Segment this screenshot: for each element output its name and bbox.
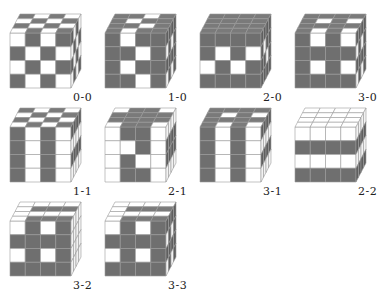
front-cell xyxy=(295,61,310,75)
cube-label: 3-2 xyxy=(73,279,92,292)
top-cell xyxy=(343,24,361,29)
front-cell xyxy=(246,155,261,169)
front-cell xyxy=(41,249,56,263)
front-cell xyxy=(120,221,135,235)
top-cell xyxy=(33,14,51,19)
top-cell xyxy=(341,28,359,33)
cube-2-1 xyxy=(105,108,176,182)
top-cell xyxy=(113,202,131,207)
front-cell xyxy=(295,33,310,47)
front-cell xyxy=(200,47,215,61)
front-cell xyxy=(295,127,310,141)
front-cell xyxy=(105,33,120,47)
front-cell xyxy=(215,168,230,182)
top-cell xyxy=(295,122,313,127)
front-cell xyxy=(25,168,40,182)
top-cell xyxy=(141,207,159,212)
top-cell xyxy=(61,113,79,118)
front-cell xyxy=(25,141,40,155)
front-cell xyxy=(295,74,310,88)
top-cell xyxy=(46,113,64,118)
front-cell xyxy=(215,141,230,155)
top-cell xyxy=(113,108,131,113)
front-cell xyxy=(136,33,151,47)
front-cell xyxy=(10,235,25,249)
top-cell xyxy=(295,28,313,33)
top-cell xyxy=(61,19,79,24)
front-cell xyxy=(105,155,120,169)
top-cell xyxy=(205,113,223,118)
front-cell xyxy=(41,47,56,61)
front-cell xyxy=(136,74,151,88)
cube-label: 2-0 xyxy=(263,91,282,104)
top-cell xyxy=(105,122,123,127)
front-cell xyxy=(326,168,341,182)
cube-1-0 xyxy=(105,14,176,88)
top-cell xyxy=(246,28,264,33)
top-cell xyxy=(151,122,169,127)
top-cell xyxy=(13,212,31,217)
top-cell xyxy=(13,24,31,29)
top-cell xyxy=(156,19,174,24)
front-cell xyxy=(200,127,215,141)
front-cell xyxy=(151,262,166,276)
top-cell xyxy=(46,19,64,24)
front-cell xyxy=(231,74,246,88)
front-cell xyxy=(56,127,71,141)
top-cell xyxy=(13,118,31,123)
front-cell xyxy=(151,249,166,263)
top-cell xyxy=(313,24,331,29)
top-cell xyxy=(153,24,171,29)
top-cell xyxy=(300,113,318,118)
top-cell xyxy=(253,108,271,113)
front-cell xyxy=(41,221,56,235)
top-cell xyxy=(341,122,359,127)
front-cell xyxy=(10,127,25,141)
front-cell xyxy=(215,61,230,75)
top-cell xyxy=(120,122,138,127)
front-cell xyxy=(310,74,325,88)
top-cell xyxy=(41,216,59,221)
front-cell xyxy=(136,155,151,169)
top-cell xyxy=(315,19,333,24)
top-cell xyxy=(63,108,81,113)
front-cell xyxy=(120,249,135,263)
front-cell xyxy=(151,141,166,155)
top-cell xyxy=(298,118,316,123)
front-cell xyxy=(25,262,40,276)
front-cell xyxy=(56,74,71,88)
front-cell xyxy=(295,168,310,182)
top-cell xyxy=(331,19,349,24)
top-cell xyxy=(28,212,46,217)
top-cell xyxy=(348,14,366,19)
top-cell xyxy=(120,216,138,221)
front-cell xyxy=(246,33,261,47)
cube-label: 3-1 xyxy=(263,185,282,198)
front-cell xyxy=(151,168,166,182)
top-cell xyxy=(48,108,66,113)
front-cell xyxy=(25,235,40,249)
top-cell xyxy=(251,19,269,24)
top-cell xyxy=(143,202,161,207)
top-cell xyxy=(220,19,238,24)
top-cell xyxy=(156,113,174,118)
front-cell xyxy=(246,141,261,155)
front-cell xyxy=(120,61,135,75)
top-cell xyxy=(223,14,241,19)
front-cell xyxy=(200,61,215,75)
front-cell xyxy=(326,47,341,61)
top-cell xyxy=(200,28,218,33)
front-cell xyxy=(295,47,310,61)
top-cell xyxy=(248,24,266,29)
top-cell xyxy=(346,113,364,118)
front-cell xyxy=(246,74,261,88)
top-cell xyxy=(15,19,33,24)
top-cell xyxy=(236,113,254,118)
top-cell xyxy=(123,212,141,217)
top-cell xyxy=(138,118,156,123)
top-cell xyxy=(343,118,361,123)
top-cell xyxy=(233,24,251,29)
front-cell xyxy=(41,61,56,75)
front-cell xyxy=(120,33,135,47)
front-cell xyxy=(41,262,56,276)
